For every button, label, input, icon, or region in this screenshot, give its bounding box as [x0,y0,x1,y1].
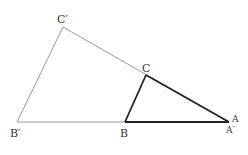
label-c-prime: C′ [57,13,68,26]
similar-triangles-diagram: C′ C B′ B A A′ [0,0,248,155]
label-a-prime: A′ [225,125,235,135]
label-a: A [231,114,239,124]
label-b: B [120,127,128,140]
segment-b-prime-c-prime [17,27,63,122]
segment-b-c [125,75,146,122]
segment-c-a [146,75,229,122]
label-b-prime: B′ [10,127,21,140]
label-c: C [142,62,150,75]
